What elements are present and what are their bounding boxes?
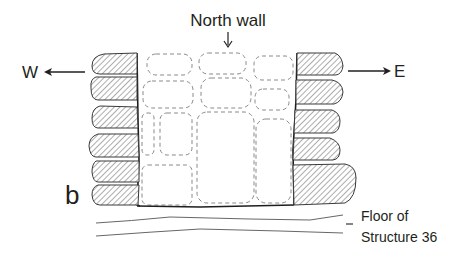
- north-wall-label: North wall: [190, 11, 266, 30]
- north-arrow-icon: [224, 32, 232, 47]
- west-label: W: [22, 63, 38, 82]
- wall-elevation-diagram: North wall W E: [0, 0, 467, 253]
- west-wall-stones: [89, 53, 139, 205]
- north-wall-stones: [142, 53, 293, 205]
- floor-label-line2: Structure 36: [361, 229, 437, 245]
- east-wall-stones: [293, 53, 356, 205]
- floor-label-line1: Floor of: [361, 208, 409, 224]
- floor-lines: [96, 215, 353, 236]
- base-line: [137, 205, 294, 207]
- east-label: E: [394, 62, 405, 81]
- west-wall-face: [137, 53, 140, 206]
- panel-label: b: [65, 180, 79, 210]
